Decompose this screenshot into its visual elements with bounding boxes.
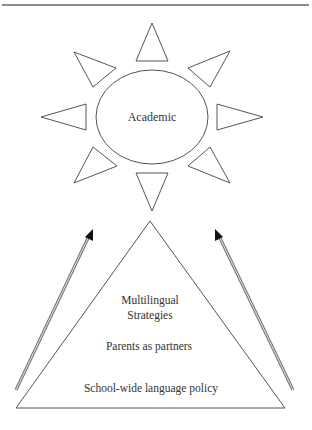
pyramid-level-1-line-1: Multilingual [121, 294, 179, 307]
diagram-canvas: Academic Multilingual Strategies Parents… [0, 0, 312, 430]
sun-ray-top-right [188, 51, 230, 87]
sun-ray-right [217, 104, 263, 130]
sun-graphic: Academic [41, 23, 263, 211]
sun-ray-bottom-right [188, 147, 230, 183]
pyramid-graphic: Multilingual Strategies Parents as partn… [16, 221, 285, 408]
academic-label: Academic [128, 110, 177, 124]
left-upward-arrow [16, 229, 93, 390]
pyramid-level-3-label: School-wide language policy [84, 382, 218, 395]
sun-ray-top [136, 23, 168, 61]
right-arrow-shaft-inner [220, 238, 293, 390]
sun-ray-left [41, 104, 86, 130]
sun-ray-top-left [74, 52, 116, 87]
pyramid-level-2-label: Parents as partners [106, 340, 193, 353]
pyramid-level-1-line-2: Strategies [127, 309, 173, 322]
left-arrow-shaft-inner [16, 238, 88, 390]
sun-ray-bottom-left [74, 147, 117, 183]
sun-ray-bottom [136, 173, 168, 211]
